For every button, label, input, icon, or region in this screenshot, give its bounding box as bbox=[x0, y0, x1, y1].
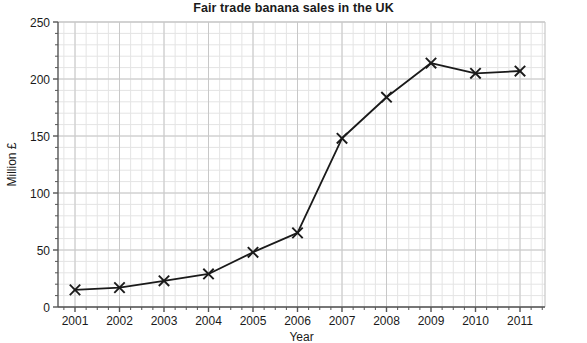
y-axis-tick-label: 250 bbox=[30, 16, 50, 30]
chart-container: Fair trade banana sales in the UK 050100… bbox=[0, 0, 587, 343]
x-axis-tick-label: 2006 bbox=[284, 314, 311, 328]
x-axis-tick-labels: 2001200220032004200520062007200820092010… bbox=[62, 314, 534, 328]
x-axis-tick-label: 2011 bbox=[507, 314, 533, 328]
line-chart-plot: 050100150200250 200120022003200420052006… bbox=[0, 0, 587, 343]
y-axis-tick-label: 50 bbox=[37, 244, 51, 258]
x-axis-tick-label: 2007 bbox=[329, 314, 356, 328]
x-axis-tick-label: 2002 bbox=[106, 314, 133, 328]
x-axis-tick-label: 2009 bbox=[418, 314, 445, 328]
y-axis-tick-label: 0 bbox=[43, 301, 50, 315]
x-axis-tick-label: 2008 bbox=[373, 314, 400, 328]
y-axis-tick-label: 100 bbox=[30, 187, 50, 201]
y-axis-tick-label: 150 bbox=[30, 130, 50, 144]
x-axis-tick-label: 2003 bbox=[151, 314, 178, 328]
x-axis-title: Year bbox=[289, 330, 313, 343]
x-axis-tick-label: 2004 bbox=[195, 314, 222, 328]
y-axis-title: Million £ bbox=[5, 142, 19, 186]
y-axis-tick-labels: 050100150200250 bbox=[30, 16, 50, 315]
y-axis-tick-label: 200 bbox=[30, 73, 50, 87]
x-axis-tick-label: 2010 bbox=[462, 314, 489, 328]
x-axis-tick-label: 2005 bbox=[240, 314, 267, 328]
x-axis-tick-label: 2001 bbox=[62, 314, 89, 328]
